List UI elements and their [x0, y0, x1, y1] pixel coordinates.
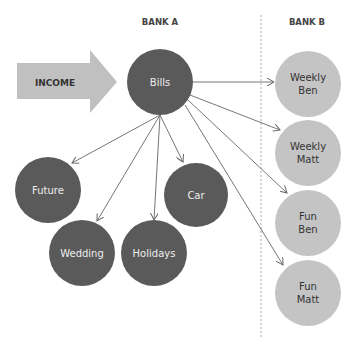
fun-ben-node: Fun Ben [275, 190, 341, 256]
holidays-node: Holidays [121, 220, 187, 286]
wedding-node: Wedding [49, 220, 115, 286]
bank-a-header: BANK A [142, 17, 179, 27]
svg-text:Wedding: Wedding [60, 248, 104, 259]
fun-matt-node: Fun Matt [275, 260, 341, 326]
svg-text:Bills: Bills [150, 77, 170, 88]
car-node: Car [164, 163, 228, 227]
svg-text:Future: Future [32, 185, 64, 196]
bills-node: Bills [127, 49, 193, 115]
weekly-matt-node: Weekly Matt [275, 120, 341, 186]
money-flow-diagram: BANK A BANK B INCOME Bills Future Car We… [0, 0, 356, 345]
income-label: INCOME [35, 78, 75, 88]
svg-text:Weekly: Weekly [290, 141, 326, 152]
svg-text:Weekly: Weekly [290, 72, 326, 83]
weekly-ben-node: Weekly Ben [275, 51, 341, 117]
svg-text:Ben: Ben [298, 224, 317, 235]
future-node: Future [15, 157, 81, 223]
svg-text:Holidays: Holidays [133, 248, 176, 259]
bank-b-header: BANK B [289, 17, 325, 27]
svg-text:Fun: Fun [299, 211, 317, 222]
svg-text:Car: Car [187, 190, 205, 201]
svg-text:Matt: Matt [297, 154, 320, 165]
svg-text:Matt: Matt [297, 294, 320, 305]
svg-text:Ben: Ben [298, 85, 317, 96]
svg-text:Fun: Fun [299, 281, 317, 292]
